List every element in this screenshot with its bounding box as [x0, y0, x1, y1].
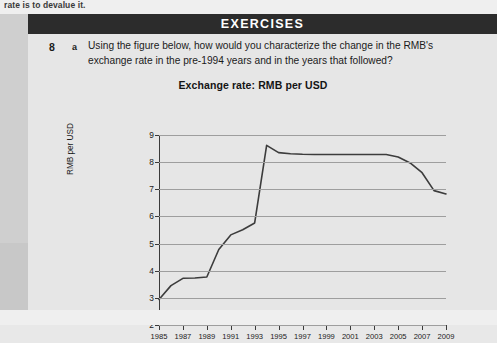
running-head: rate is to devalue it. [4, 0, 164, 9]
y-tick-label-4: 4 [149, 266, 154, 276]
x-tick-mark-1995 [279, 326, 280, 330]
x-tick-mark-1999 [326, 326, 327, 330]
exercise-number: 8 [49, 41, 55, 53]
x-tick-label-1999: 1999 [318, 332, 335, 341]
y-tick-label-3: 3 [149, 293, 154, 303]
x-tick-mark-1991 [231, 326, 232, 330]
x-tick-label-2001: 2001 [342, 332, 359, 341]
y-tick-label-5: 5 [149, 239, 154, 249]
gridline-y-7 [159, 189, 446, 190]
y-tick-mark-7 [155, 189, 159, 190]
x-tick-label-2009: 2009 [438, 332, 455, 341]
x-tick-mark-1989 [207, 326, 208, 330]
x-tick-label-1993: 1993 [246, 332, 263, 341]
x-tick-mark-2007 [422, 326, 423, 330]
x-tick-label-2003: 2003 [366, 332, 383, 341]
y-tick-mark-5 [155, 244, 159, 245]
x-tick-mark-1993 [255, 326, 256, 330]
y-tick-mark-6 [155, 216, 159, 217]
series-path-rmb-per-usd [159, 145, 446, 299]
x-tick-mark-2005 [398, 326, 399, 330]
y-tick-mark-4 [155, 271, 159, 272]
exercise-part-letter: a [72, 42, 77, 52]
y-tick-mark-8 [155, 162, 159, 163]
x-tick-mark-1985 [159, 326, 160, 330]
x-tick-mark-1987 [183, 326, 184, 330]
y-tick-label-8: 8 [149, 157, 154, 167]
gridline-y-4 [159, 271, 446, 272]
x-tick-label-2007: 2007 [414, 332, 431, 341]
y-tick-mark-9 [155, 135, 159, 136]
chart-title: Exchange rate: RMB per USD [88, 79, 418, 91]
y-tick-label-9: 9 [149, 130, 154, 140]
page-bottom-edge [0, 310, 497, 325]
chart-plot-area: 23456789 [159, 135, 446, 325]
x-tick-label-1989: 1989 [198, 332, 215, 341]
gridline-y-9 [159, 135, 446, 136]
gridline-y-3 [159, 298, 446, 299]
x-tick-label-2005: 2005 [390, 332, 407, 341]
y-axis-label: RMB per USD [66, 123, 75, 175]
y-tick-mark-3 [155, 298, 159, 299]
x-tick-label-1985: 1985 [151, 332, 168, 341]
x-tick-label-1997: 1997 [294, 332, 311, 341]
x-tick-mark-1997 [303, 326, 304, 330]
gridline-y-5 [159, 244, 446, 245]
x-tick-label-1987: 1987 [174, 332, 191, 341]
exercises-banner: EXERCISES [28, 14, 497, 34]
y-tick-label-7: 7 [149, 184, 154, 194]
x-tick-mark-2001 [350, 326, 351, 330]
gridline-y-6 [159, 216, 446, 217]
x-axis-ticks: 1985198719891991199319951997199920012003… [159, 326, 447, 343]
gridline-y-8 [159, 162, 446, 163]
left-margin-strip-lower [0, 243, 28, 310]
exchange-rate-chart: Exchange rate: RMB per USD RMB per USD 2… [88, 79, 488, 304]
exercise-body-panel: 8 a Using the figure below, how would yo… [28, 34, 497, 310]
exercise-prompt: Using the figure below, how would you ch… [88, 39, 478, 68]
x-tick-label-1995: 1995 [270, 332, 287, 341]
x-tick-label-1991: 1991 [222, 332, 239, 341]
x-tick-mark-2009 [446, 326, 447, 330]
x-tick-mark-2003 [374, 326, 375, 330]
exercises-banner-label: EXERCISES [28, 14, 497, 34]
y-tick-label-6: 6 [149, 211, 154, 221]
series-line-rmb-per-usd [159, 135, 446, 325]
